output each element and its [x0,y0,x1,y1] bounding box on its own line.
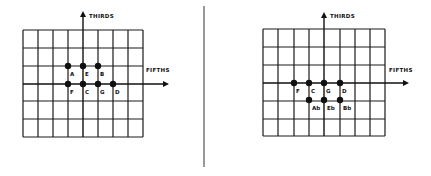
left-fifths-label: FIFTHS [146,67,170,73]
note-dot-g [95,81,101,87]
note-label-bb: Bb [343,105,351,111]
note-label-f: F [296,88,300,94]
note-dot-g [321,80,327,86]
left-panel: THIRDS FIFTHS A E B F C G D [23,13,170,137]
note-label-c: C [85,89,89,95]
note-label-c: C [311,88,315,94]
note-label-g: G [326,88,331,94]
note-dot-c [80,81,86,87]
note-dot-f [65,81,71,87]
left-thirds-label: THIRDS [89,13,114,19]
note-dot-e [80,63,86,69]
note-dot-d [337,80,343,86]
right-fifths-label: FIFTHS [389,67,413,73]
note-label-eb: Eb [327,105,335,111]
note-dot-b [95,63,101,69]
note-label-ab: Ab [312,105,320,111]
note-dot-ab [306,97,312,103]
note-dot-f [291,80,297,86]
note-dot-bb [337,97,343,103]
note-dot-c [306,80,312,86]
note-label-d: D [115,89,120,95]
note-label-d: D [342,88,347,94]
left-points: A E B F C G D [65,63,120,95]
tonnetz-diagram: THIRDS FIFTHS A E B F C G D [0,0,431,176]
note-label-g: G [100,89,105,95]
note-label-f: F [70,89,74,95]
note-dot-d [110,81,116,87]
note-dot-a [65,63,71,69]
note-dot-eb [321,97,327,103]
right-points: F C G D Ab Eb Bb [291,80,351,111]
note-label-e: E [85,71,89,77]
note-label-b: B [100,71,104,77]
right-thirds-label: THIRDS [330,13,355,19]
right-panel: THIRDS FIFTHS F C G D Ab Eb Bb [263,13,413,136]
note-label-a: A [70,71,75,77]
